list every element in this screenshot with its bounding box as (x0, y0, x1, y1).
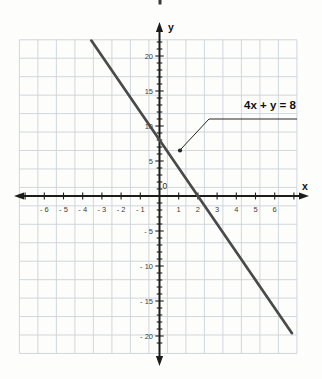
x-tick-label: 4 (234, 205, 238, 214)
y-tick-label: - 5 (144, 227, 153, 236)
origin-label: 0 (163, 181, 168, 191)
x-tick-label: 3 (215, 205, 219, 214)
y-axis-down-arrow (156, 356, 163, 366)
plotted-line (91, 41, 292, 334)
y-tick-label: 5 (149, 157, 153, 166)
annotation-leader-line (181, 119, 297, 149)
x-axis-label: x (302, 180, 308, 192)
y-axis-up-arrow (156, 22, 163, 32)
x-axis-right-arrow (299, 192, 309, 199)
y-tick-label: - 10 (140, 262, 153, 271)
x-tick-label: - 2 (117, 205, 126, 214)
x-tick-label: - 1 (136, 205, 145, 214)
x-tick-label: - 5 (59, 205, 68, 214)
x-tick-label: 1 (177, 205, 181, 214)
graph-page: - 6- 5- 4- 3- 2- 1123456 2015105- 5- 10-… (0, 0, 322, 379)
y-tick-label: 20 (145, 52, 153, 61)
x-tick-label: 6 (273, 205, 277, 214)
equation-annotation: 4x + y = 8 (178, 99, 297, 153)
equation-label: 4x + y = 8 (244, 99, 296, 111)
x-tick-label: 5 (253, 205, 257, 214)
x-tick-label: 2 (196, 205, 200, 214)
coordinate-plane: - 6- 5- 4- 3- 2- 1123456 2015105- 5- 10-… (0, 0, 322, 379)
y-axis-label: y (168, 21, 174, 33)
axes (14, 22, 309, 366)
y-tick-label: 15 (145, 87, 153, 96)
y-tick-label: - 20 (140, 332, 153, 341)
annotation-pointer-dot (178, 148, 182, 152)
plotted-line-group (91, 41, 292, 334)
x-tick-label: - 4 (78, 205, 87, 214)
scan-artifact (159, 0, 162, 5)
y-tick-label: - 15 (140, 297, 153, 306)
x-tick-label: - 6 (40, 205, 49, 214)
x-tick-label: - 3 (98, 205, 107, 214)
